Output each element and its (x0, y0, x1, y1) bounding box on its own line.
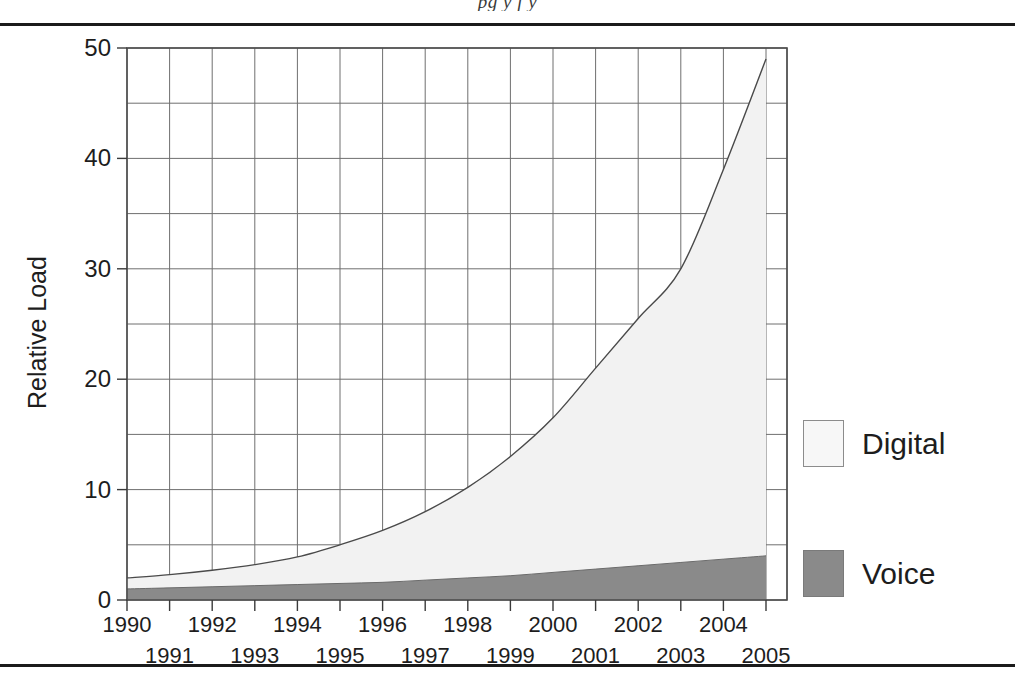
stacked-area-chart: Relative Load 01020304050 19901991199219… (0, 28, 1015, 658)
x-axis-ticks (127, 600, 766, 611)
x-axis-tick-label: 2002 (605, 614, 671, 636)
x-axis-tick-label: 2000 (520, 614, 586, 636)
legend-label-voice: Voice (862, 557, 935, 591)
x-axis-tick-label: 1992 (179, 614, 245, 636)
figure-page: pg y f y Relative Load 01020304050 19901… (0, 0, 1015, 691)
x-axis-tick-label: 1998 (435, 614, 501, 636)
y-axis-tick-label: 0 (55, 588, 111, 612)
x-axis-tick-label: 1997 (392, 645, 458, 667)
x-axis-tick-label: 1991 (137, 645, 203, 667)
y-axis-tick-label: 10 (55, 478, 111, 502)
x-axis-tick-label: 2005 (733, 645, 799, 667)
legend-item-digital[interactable]: Digital (803, 420, 945, 467)
legend-swatch-digital (803, 420, 844, 467)
x-axis-tick-label: 2003 (648, 645, 714, 667)
y-axis-tick-label: 30 (55, 257, 111, 281)
x-axis-tick-label: 2001 (563, 645, 629, 667)
x-axis-tick-label: 2004 (690, 614, 756, 636)
x-axis-tick-label: 1996 (350, 614, 416, 636)
y-axis-ticks (117, 48, 127, 600)
x-axis-tick-label: 1993 (222, 645, 288, 667)
legend-item-voice[interactable]: Voice (803, 550, 935, 597)
top-horizontal-rule (0, 23, 1015, 26)
y-axis-tick-label: 20 (55, 367, 111, 391)
y-axis-tick-label: 50 (55, 36, 111, 60)
x-axis-tick-label: 1994 (264, 614, 330, 636)
x-axis-tick-label: 1999 (477, 645, 543, 667)
x-axis-tick-label: 1995 (307, 645, 373, 667)
running-head: pg y f y (0, 0, 1015, 11)
x-axis-tick-label: 1990 (94, 614, 160, 636)
y-axis-tick-label: 40 (55, 146, 111, 170)
legend-swatch-voice (803, 550, 844, 597)
legend-label-digital: Digital (862, 427, 945, 461)
